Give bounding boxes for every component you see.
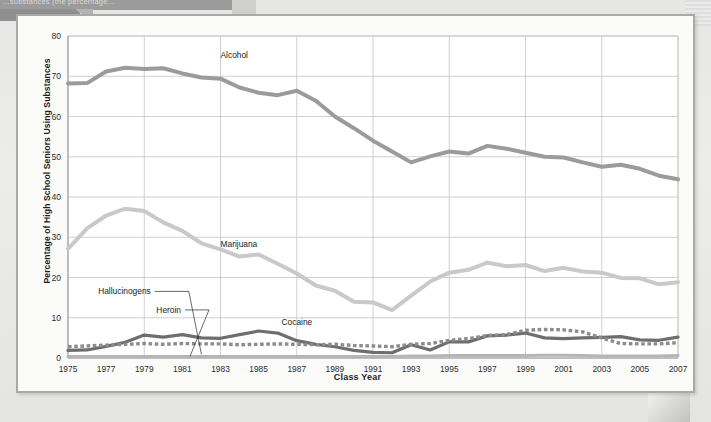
y-tick-label: 40 — [51, 192, 61, 202]
x-tick-label: 1977 — [97, 364, 116, 374]
y-tick-label: 0 — [56, 353, 61, 363]
x-tick-label: 2003 — [592, 364, 611, 374]
y-tick-label: 50 — [51, 152, 61, 162]
page-side-strip — [232, 0, 256, 14]
x-tick-label: 2005 — [631, 364, 650, 374]
x-tick-label: 1981 — [173, 364, 192, 374]
y-tick-label: 70 — [51, 71, 61, 81]
banner-caption-text: ...substances (the percentage... — [3, 0, 231, 9]
series-line-heroin — [68, 355, 678, 356]
series-label-hallucinogens: Hallucinogens — [98, 286, 151, 296]
line-chart-svg: 0102030405060708019751977197919811983198… — [18, 16, 697, 395]
series-label-heroin: Heroin — [156, 305, 181, 315]
page-curl — [648, 392, 690, 422]
x-tick-label: 1985 — [249, 364, 268, 374]
series-label-cocaine: Cocaine — [282, 317, 313, 327]
x-tick-label: 1975 — [59, 364, 78, 374]
y-tick-label: 60 — [51, 112, 61, 122]
x-tick-label: 1989 — [326, 364, 345, 374]
y-tick-label: 80 — [51, 31, 61, 41]
plot-area: 0102030405060708019751977197919811983198… — [18, 16, 697, 395]
y-tick-label: 30 — [51, 232, 61, 242]
x-tick-label: 2001 — [554, 364, 573, 374]
y-tick-label: 10 — [51, 313, 61, 323]
x-tick-label: 2007 — [669, 364, 688, 374]
x-tick-label: 1997 — [478, 364, 497, 374]
series-label-alcohol: Alcohol — [221, 50, 249, 60]
chart-figure: Percentage of High School Seniors Using … — [16, 14, 695, 393]
x-tick-label: 1979 — [135, 364, 154, 374]
x-tick-label: 1987 — [287, 364, 306, 374]
x-tick-label: 1993 — [402, 364, 421, 374]
x-tick-label: 1999 — [516, 364, 535, 374]
x-tick-label: 1995 — [440, 364, 459, 374]
y-tick-label: 20 — [51, 273, 61, 283]
series-label-marijuana: Marijuana — [221, 239, 258, 249]
x-tick-label: 1983 — [211, 364, 230, 374]
x-tick-label: 1991 — [364, 364, 383, 374]
